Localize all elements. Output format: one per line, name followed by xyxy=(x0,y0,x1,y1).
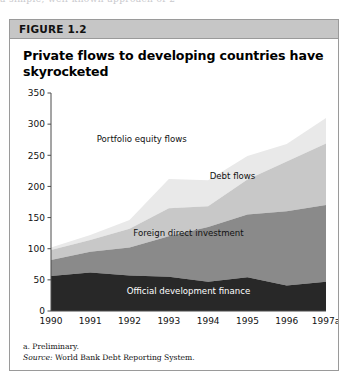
x-tick-label: 1992 xyxy=(118,316,141,326)
series-annotation-official-development-finance: Official development finance xyxy=(127,286,251,296)
y-tick-label: 250 xyxy=(28,151,45,161)
figure-header: FIGURE 1.2 xyxy=(10,20,338,39)
y-tick-label: 300 xyxy=(28,120,45,130)
y-tick-label: 50 xyxy=(34,275,46,285)
stacked-area-chart: 050100150200250300350 199019911992199319… xyxy=(10,87,338,341)
series-annotation-portfolio-equity-flows: Portfolio equity flows xyxy=(97,134,188,144)
source-label: Source: xyxy=(23,353,53,362)
x-tick-label: 1990 xyxy=(40,316,63,326)
series-annotation-foreign-direct-investment: Foreign direct investment xyxy=(133,228,244,238)
x-tick-label: 1993 xyxy=(157,316,180,326)
figure-title: Private flows to developing countries ha… xyxy=(23,48,325,80)
source-text: World Bank Debt Reporting System. xyxy=(55,353,195,362)
y-tick-label: 200 xyxy=(28,182,45,192)
y-axis-tick-labels: 050100150200250300350 xyxy=(28,89,51,317)
figure-notes: a. Preliminary. Source: World Bank Debt … xyxy=(23,341,328,363)
y-tick-label: 150 xyxy=(28,213,45,223)
x-tick-label: 1991 xyxy=(79,316,102,326)
figure-footnote: a. Preliminary. xyxy=(23,341,328,352)
x-axis-tick-labels: 19901991199219931994199519961997a xyxy=(40,316,338,326)
y-tick-label: 100 xyxy=(28,244,45,254)
figure-source: Source: World Bank Debt Reporting System… xyxy=(23,352,328,363)
x-tick-label: 1995 xyxy=(236,316,259,326)
chart-series-areas xyxy=(51,118,326,311)
series-annotation-debt-flows: Debt flows xyxy=(210,171,256,181)
chart-area: 050100150200250300350 199019911992199319… xyxy=(10,87,338,341)
page-bleed-text: a simple, well-known approach of 2 xyxy=(0,0,355,14)
figure-box: FIGURE 1.2 Private flows to developing c… xyxy=(9,19,339,371)
x-tick-label: 1997a xyxy=(312,316,338,326)
figure-number-label: FIGURE 1.2 xyxy=(19,23,87,35)
page-bleed-fragment: a simple, well-known approach of 2 xyxy=(0,0,175,4)
x-tick-label: 1994 xyxy=(197,316,220,326)
x-tick-label: 1996 xyxy=(275,316,298,326)
y-tick-label: 350 xyxy=(28,89,45,99)
